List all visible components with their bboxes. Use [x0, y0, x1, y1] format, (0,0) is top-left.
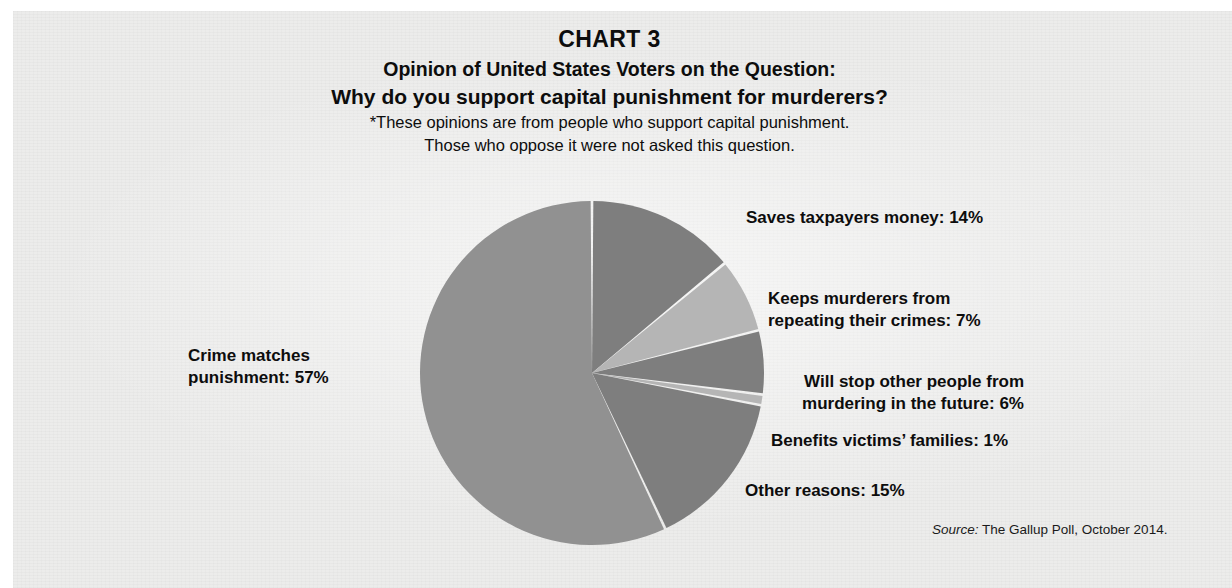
pie-label-other-reasons: Other reasons: 15% — [745, 480, 905, 502]
pie-chart — [413, 194, 771, 552]
pie-label-saves-taxpayers-money: Saves taxpayers money: 14% — [746, 207, 983, 229]
chart-footnote-line-2: Those who oppose it were not asked this … — [0, 134, 1219, 157]
source-word: Source: — [932, 522, 979, 537]
chart-number-label: CHART 3 — [0, 25, 1219, 53]
pie-chart-svg — [413, 194, 771, 552]
source-note: Source: The Gallup Poll, October 2014. — [932, 522, 1167, 537]
chart-question-title: Why do you support capital punishment fo… — [0, 83, 1219, 111]
pie-label-crime-matches-punishment: Crime matches punishment: 57% — [188, 345, 329, 389]
chart-footnote-line-1: *These opinions are from people who supp… — [0, 111, 1219, 134]
title-block: CHART 3 Opinion of United States Voters … — [0, 25, 1219, 157]
pie-label-will-stop-other-people: Will stop other people from murdering in… — [774, 371, 1024, 415]
chart-page: CHART 3 Opinion of United States Voters … — [0, 0, 1232, 588]
source-text: The Gallup Poll, October 2014. — [979, 522, 1168, 537]
pie-slice-group — [420, 201, 764, 545]
pie-label-keeps-murderers-from-repeating: Keeps murderers from repeating their cri… — [768, 288, 981, 332]
pie-label-benefits-victims-families: Benefits victims’ families: 1% — [771, 430, 1008, 452]
chart-subtitle-line-1: Opinion of United States Voters on the Q… — [0, 56, 1219, 83]
